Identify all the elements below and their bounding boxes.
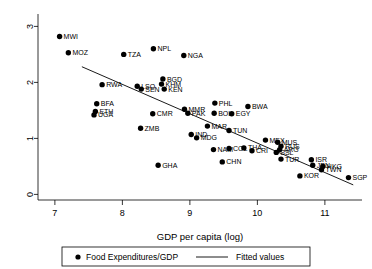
data-point: EGY [229,110,251,117]
data-point: BWA [245,103,268,110]
data-point-label: ZMB [145,125,160,132]
data-point-marker [245,104,250,109]
data-point-marker [211,147,216,152]
data-point-marker [139,86,144,91]
data-point-label: TWN [326,166,342,173]
data-point: KOR [297,172,319,179]
data-point-marker [121,52,126,57]
data-point-label: CRI [256,147,268,154]
y-tick-label: 0 [25,192,35,197]
data-point-marker [155,163,160,168]
data-point-marker [297,173,302,178]
data-point-marker [220,159,225,164]
data-point-marker [263,137,268,142]
x-tick-label: 9 [187,208,192,218]
data-point-marker [319,167,324,172]
data-point-label: NPL [157,45,171,52]
data-point-marker [57,34,62,39]
data-point: ZMB [138,125,160,132]
data-point-label: UGA [98,111,114,118]
data-point-marker [181,53,186,58]
data-point: NGA [181,52,203,59]
data-point-label: KEN [168,86,182,93]
scatter-plot: 0123 7891011 GDP per capita (log) MWIMOZ… [0,0,372,269]
legend-fit-label: Fitted values [236,252,284,262]
data-point-label: MAR [211,123,227,130]
data-point-marker [346,175,351,180]
chart-legend: Food Expenditures/GDP Fitted values [62,247,310,266]
legend-series-label: Food Expenditures/GDP [86,252,178,262]
data-point-label: SGP [353,174,368,181]
data-point-marker [309,157,314,162]
y-tick-label: 3 [25,24,35,29]
data-point-marker [189,132,194,137]
y-tick-label: 2 [25,80,35,85]
x-tick-label: 7 [52,208,57,218]
data-point-label: EGY [236,110,251,117]
data-point-marker [212,100,217,105]
x-tick-label: 10 [252,208,262,218]
data-point: CRI [249,147,268,154]
data-point: RWA [99,81,122,88]
data-point-marker [94,101,99,106]
data-point-marker [211,111,216,116]
data-point-label: PAK [192,110,206,117]
data-point: MAR [205,123,227,130]
x-axis-ticks: 7891011 [52,200,329,218]
data-point: UGA [91,111,113,118]
x-axis-title: GDP per capita (log) [157,231,243,242]
data-point: KEN [162,86,183,93]
data-point-label: TZA [128,51,142,58]
data-point-marker [138,126,143,131]
y-tick-label: 1 [25,136,35,141]
data-point: MOZ [66,49,89,56]
data-point: MDG [194,134,217,141]
data-point-marker [162,86,167,91]
data-point: MWI [57,33,78,40]
data-point-label: PHL [219,100,233,107]
data-point: BFA [94,100,114,107]
y-axis-ticks: 0123 [25,24,38,197]
data-point-marker [274,150,279,155]
data-point: CHN [220,158,242,165]
data-point: NPL [151,45,171,52]
data-point-label: BFA [101,100,115,107]
data-point-label: RWA [106,81,122,88]
data-point-label: MWI [64,33,78,40]
x-tick-label: 8 [120,208,125,218]
x-tick-label: 11 [320,208,329,218]
data-point-marker [150,111,155,116]
data-point-label: KOR [304,172,319,179]
data-point-marker [194,135,199,140]
data-point: TWN [319,166,342,173]
data-point-marker [310,163,315,168]
data-point-label: MOZ [72,49,88,56]
data-point-marker [241,145,246,150]
data-point: PHL [212,100,232,107]
data-point: CMR [150,110,173,117]
data-point-label: CHN [226,158,241,165]
data-point: SGP [346,174,368,181]
data-point-marker [151,46,156,51]
data-point-marker [159,81,164,86]
data-point-label: SEN [145,86,159,93]
data-points: MWIMOZTZANPLNGARWALSOSENBGDKHMKENBFAETHU… [57,33,368,181]
data-point-marker [226,146,231,151]
data-point-label: NGA [188,52,204,59]
data-point-label: CMR [157,110,173,117]
data-point: GHA [155,162,177,169]
legend-marker-icon [75,254,80,259]
data-point-marker [205,123,210,128]
data-point-label: BWA [252,103,268,110]
data-point-marker [249,148,254,153]
data-point: TUR [278,156,299,163]
data-point-label: TUR [285,156,299,163]
data-point-marker [185,111,190,116]
data-point-marker [99,82,104,87]
data-point: SEN [139,86,160,93]
data-point-marker [66,50,71,55]
data-point-marker [229,111,234,116]
chart-figure: 0123 7891011 GDP per capita (log) MWIMOZ… [0,0,372,269]
data-point-marker [91,112,96,117]
data-point: TUN [226,127,247,134]
